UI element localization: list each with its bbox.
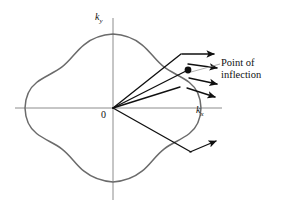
k-vector-group — [113, 54, 191, 152]
k-vector-2 — [113, 70, 188, 108]
figure-canvas — [0, 0, 281, 211]
inflection-point-dot — [185, 67, 192, 74]
inflection-callout-label: Point of inflection — [221, 57, 261, 81]
velocity-arrow-3 — [189, 78, 217, 84]
x-axis-label: kx — [196, 104, 204, 116]
y-axis-label-subscript: y — [99, 17, 102, 25]
fermi-surface-figure: ky kx 0 Point of inflection — [0, 0, 281, 211]
origin-label: 0 — [101, 109, 106, 120]
x-axis-label-subscript: x — [200, 110, 203, 118]
inflection-callout-line-2: inflection — [221, 69, 261, 81]
velocity-arrow-4 — [187, 88, 215, 97]
inflection-callout-line-1: Point of — [221, 57, 261, 69]
axes-group — [15, 18, 222, 200]
k-vector-1 — [113, 54, 181, 108]
velocity-arrow-5 — [190, 141, 216, 152]
y-axis-label: ky — [95, 11, 103, 23]
k-vector-3 — [113, 87, 180, 108]
k-vector-4 — [113, 108, 191, 152]
